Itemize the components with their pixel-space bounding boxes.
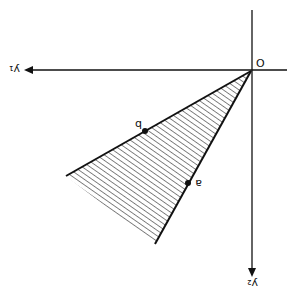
point-a-label: a [195,177,202,190]
y1-arrowhead-icon [24,66,33,74]
y2-arrowhead-icon [248,268,256,277]
y1-axis-label: y₁ [9,63,20,76]
cone-diagram: O y₁ y₂ b a [0,0,290,301]
origin-label: O [256,57,265,70]
hatched-cone-region [66,71,251,244]
point-a [185,180,191,186]
point-b-label: b [135,118,142,131]
y2-axis-label: y₂ [247,277,258,290]
